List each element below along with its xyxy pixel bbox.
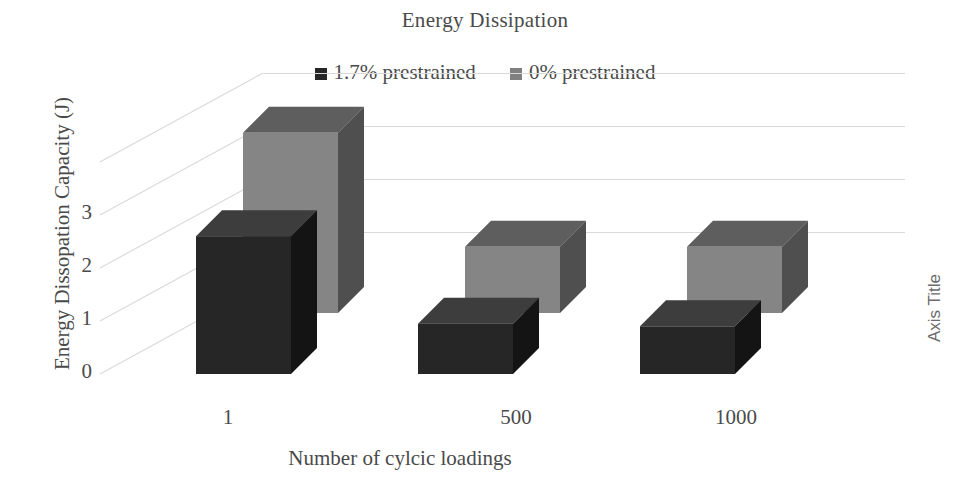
bar-front-face <box>418 324 513 374</box>
chart-canvas: Energy Dissipation 1.7% prestrained 0% p… <box>0 0 970 482</box>
depth-gridline <box>100 74 262 162</box>
bar-series-1_7pct-1000 <box>640 300 761 374</box>
bar-side-face <box>291 210 317 374</box>
bar-side-face <box>338 107 364 313</box>
depth-gridline <box>100 127 262 215</box>
plot-area <box>0 0 970 482</box>
bar-front-face <box>640 326 735 374</box>
bar-series-1_7pct-500 <box>418 298 539 374</box>
bar-series-0pct-1000 <box>687 221 808 313</box>
bar-front-face <box>196 236 291 374</box>
bar-series-1_7pct-1 <box>196 210 317 374</box>
bars-group <box>196 107 808 374</box>
